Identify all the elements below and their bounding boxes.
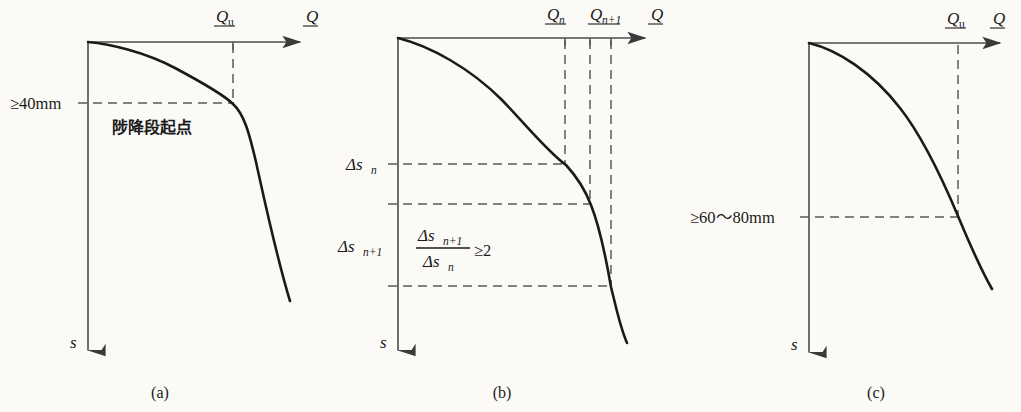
panel-a-steep-drop-note: 陟降段起点 [112,118,192,137]
panel-a-curve [88,42,290,301]
panel-b-qn-label-base: Q [547,5,559,24]
panel-b-ds-n1-base: Δs [337,237,355,256]
panel-c-curve [809,43,992,289]
panel-b-curve [398,38,627,343]
panel-a-qu-label-base: Q [216,7,228,26]
panel-a: Q Q u ≥40mm 陟降段起点 s (a) [10,7,318,402]
panel-b-frac-denominator-sub: n [448,261,454,273]
panel-b-frac-numerator-sub: n+1 [443,235,462,247]
panel-b-q-axis-label: Q [651,5,663,24]
panel-b-frac-denominator-base: Δs [422,252,440,271]
panel-c: Q Q u ≥60～80mm s (c) [690,9,1005,402]
panel-b-ratio-formula: Δs n+1 Δs n ≥2 [416,226,491,273]
panel-a-caption: (a) [151,384,169,402]
panel-a-q-axis-label: Q [306,7,318,26]
panel-b-qn1-label-base: Q [590,5,602,24]
panel-b-s-axis-label: s [380,333,387,352]
panel-c-caption: (c) [867,384,885,402]
panel-b-frac-relation: ≥2 [474,241,491,260]
panel-b: Q Q n Q n+1 Δs n Δs n+1 Δs n+1 Δs [337,5,663,402]
panel-c-qu-label-base: Q [947,9,959,28]
panel-a-threshold-label: ≥40mm [10,94,61,113]
panel-b-ds-n-base: Δs [345,155,363,174]
panel-a-s-axis-label: s [70,333,77,352]
panel-b-ds-n-sub: n [371,164,377,176]
panel-b-ds-n1-sub: n+1 [363,246,382,258]
panel-c-s-axis-label: s [791,335,798,354]
panel-b-frac-numerator-base: Δs [417,226,435,245]
q-s-curves-figure: Q Q u ≥40mm 陟降段起点 s (a) Q Q n [0,0,1021,412]
panel-c-threshold-label: ≥60～80mm [690,208,775,227]
panel-c-q-axis-label: Q [993,9,1005,28]
panel-b-caption: (b) [493,384,512,402]
